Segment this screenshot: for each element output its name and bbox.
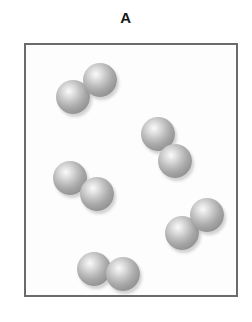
molecule-bottom-right — [26, 45, 236, 295]
atom-sphere — [158, 144, 192, 178]
molecule-right-middle — [26, 45, 236, 295]
atom-sphere — [77, 252, 111, 286]
molecule-left-middle — [26, 45, 236, 295]
atom-sphere — [190, 198, 224, 232]
atom-sphere — [141, 117, 175, 151]
atom-sphere — [83, 63, 117, 97]
molecule-bottom-left — [26, 45, 236, 295]
molecule-top-left — [26, 45, 236, 295]
atom-sphere — [106, 257, 140, 291]
molecule-layer — [26, 45, 236, 295]
atom-sphere — [56, 80, 90, 114]
figure-panel: A — [0, 0, 252, 322]
atom-sphere — [80, 177, 114, 211]
atom-sphere — [53, 161, 87, 195]
container-box — [24, 43, 238, 297]
panel-label: A — [0, 9, 252, 27]
atom-sphere — [165, 216, 199, 250]
